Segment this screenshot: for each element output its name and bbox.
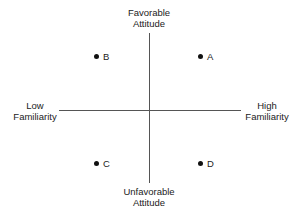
dot-icon bbox=[94, 54, 99, 59]
top-label-line2: Attitude bbox=[124, 18, 174, 29]
right-label-line1: High bbox=[242, 100, 292, 111]
horizontal-axis bbox=[59, 110, 241, 111]
bottom-label-line1: Unfavorable bbox=[119, 186, 179, 197]
point-a: A bbox=[198, 51, 213, 62]
bottom-axis-label: Unfavorable Attitude bbox=[119, 186, 179, 208]
right-axis-label: High Familiarity bbox=[242, 100, 292, 122]
vertical-axis bbox=[149, 33, 150, 183]
point-label: B bbox=[103, 51, 109, 62]
top-axis-label: Favorable Attitude bbox=[124, 7, 174, 29]
point-c: C bbox=[94, 158, 110, 169]
point-label: A bbox=[207, 51, 213, 62]
left-axis-label: Low Familiarity bbox=[10, 100, 60, 122]
left-label-line1: Low bbox=[10, 100, 60, 111]
point-label: C bbox=[103, 158, 110, 169]
point-label: D bbox=[207, 158, 214, 169]
point-b: B bbox=[94, 51, 109, 62]
left-label-line2: Familiarity bbox=[10, 111, 60, 122]
bottom-label-line2: Attitude bbox=[119, 197, 179, 208]
dot-icon bbox=[94, 161, 99, 166]
right-label-line2: Familiarity bbox=[242, 111, 292, 122]
top-label-line1: Favorable bbox=[124, 7, 174, 18]
point-d: D bbox=[198, 158, 214, 169]
dot-icon bbox=[198, 54, 203, 59]
dot-icon bbox=[198, 161, 203, 166]
